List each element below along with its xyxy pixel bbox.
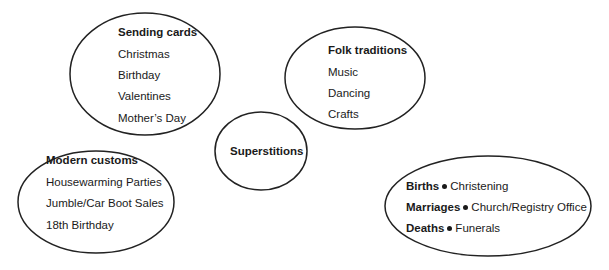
list-item: Valentines (118, 91, 171, 103)
life-event-detail: Church/Registry Office (471, 201, 586, 213)
bullet-icon (447, 226, 452, 231)
list-item: Mother’s Day (118, 113, 186, 125)
bubble-title: Folk traditions (328, 45, 407, 57)
life-event-detail: Funerals (455, 222, 500, 234)
list-item: Housewarming Parties (46, 177, 162, 189)
life-event-row: MarriagesChurch/Registry Office (406, 202, 587, 214)
life-event-term: Deaths (406, 222, 444, 234)
bubble-title: Sending cards (118, 27, 197, 39)
list-item: Jumble/Car Boot Sales (46, 198, 164, 210)
life-event-row: DeathsFunerals (406, 223, 500, 235)
life-event-detail: Christening (450, 180, 508, 192)
list-item: 18th Birthday (46, 220, 114, 232)
list-item: Dancing (328, 88, 370, 100)
list-item: Music (328, 67, 358, 79)
life-event-row: BirthsChristening (406, 181, 508, 193)
list-item: Birthday (118, 70, 160, 82)
life-event-term: Births (406, 180, 439, 192)
bubble-title: Modern customs (46, 155, 138, 167)
list-item: Christmas (118, 49, 170, 61)
list-item: Crafts (328, 109, 359, 121)
bullet-icon (442, 184, 447, 189)
bullet-icon (463, 205, 468, 210)
bubble-title: Superstitions (230, 146, 303, 158)
life-event-term: Marriages (406, 201, 460, 213)
